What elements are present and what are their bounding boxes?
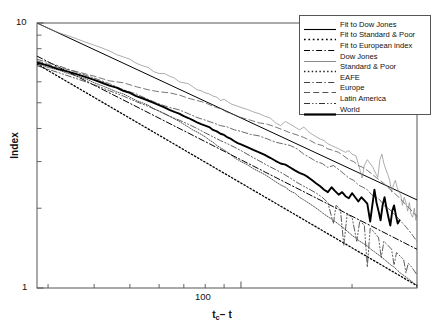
legend-item-label: EAFE xyxy=(340,73,360,82)
legend-item[interactable]: EAFE xyxy=(303,72,428,83)
legend-item[interactable]: World xyxy=(303,104,428,115)
legend-line-swatch xyxy=(303,41,337,50)
legend-item-label: Fit to Dow Jones xyxy=(340,20,397,29)
x-axis-label-subscript: c xyxy=(216,313,220,322)
x-axis-tick-label-100: 100 xyxy=(195,291,211,302)
y-axis-label: Index xyxy=(9,116,20,176)
legend-line-swatch xyxy=(303,20,337,29)
figure-container: 10 1 100 Index tc– t Fit to Dow JonesFit… xyxy=(0,0,432,334)
legend-item[interactable]: Fit to Dow Jones xyxy=(303,19,428,30)
legend-line-swatch xyxy=(303,73,337,82)
legend-item[interactable]: Europe xyxy=(303,83,428,94)
legend-line-swatch xyxy=(303,83,337,92)
x-axis-label: tc– t xyxy=(182,309,262,320)
legend-item-label: Latin America xyxy=(340,94,386,103)
legend-item-label: Fit to Standard & Poor xyxy=(340,30,415,39)
legend-item-label: Standard & Poor xyxy=(340,62,396,71)
legend-item[interactable]: Dow Jones xyxy=(303,51,428,62)
legend-line-swatch xyxy=(303,52,337,61)
legend-item[interactable]: Standard & Poor xyxy=(303,61,428,72)
legend-item-label: Dow Jones xyxy=(340,52,378,61)
y-axis-tick-label-bottom: 1 xyxy=(22,281,27,292)
x-axis-label-tail: – t xyxy=(220,309,232,320)
legend-line-swatch xyxy=(303,30,337,39)
legend-line-swatch xyxy=(303,105,337,114)
legend-item[interactable]: Fit to Standard & Poor xyxy=(303,30,428,41)
legend-line-swatch xyxy=(303,62,337,71)
legend-item-label: Europe xyxy=(340,83,365,92)
chart-legend: Fit to Dow JonesFit to Standard & PoorFi… xyxy=(299,15,431,115)
y-axis-tick-label-top: 10 xyxy=(16,16,27,27)
legend-item-label: World xyxy=(340,105,360,114)
legend-item[interactable]: Latin America xyxy=(303,93,428,104)
legend-item[interactable]: Fit to European index xyxy=(303,40,428,51)
legend-item-label: Fit to European index xyxy=(340,41,412,50)
legend-line-swatch xyxy=(303,94,337,103)
